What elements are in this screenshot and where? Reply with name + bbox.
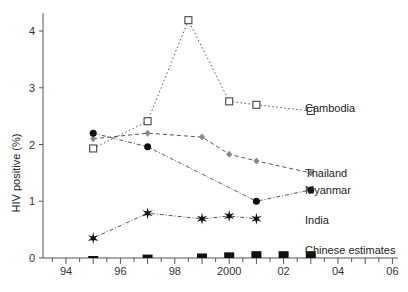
x-tick-label: 06 <box>386 265 398 277</box>
data-point <box>253 101 260 108</box>
data-point <box>90 145 97 152</box>
data-point <box>144 118 151 125</box>
data-point <box>199 134 205 141</box>
data-point <box>185 17 192 24</box>
data-point <box>226 151 232 158</box>
data-point <box>90 130 97 137</box>
bar <box>279 251 289 258</box>
data-point <box>253 157 259 164</box>
data-point <box>145 130 151 137</box>
bar <box>88 256 98 258</box>
x-tick-label: 94 <box>60 265 72 277</box>
data-point <box>88 232 98 244</box>
hiv-prevalence-chart: 012349496982000020406HIV positive (%)Cam… <box>0 0 408 292</box>
y-tick-label: 1 <box>29 195 35 207</box>
series-label-chinese-estimates: Chinese estimates <box>305 244 396 256</box>
series-label-cambodia: Cambodia <box>305 102 356 114</box>
series-line-myanmar <box>93 133 311 201</box>
x-tick-label: 04 <box>332 265 344 277</box>
bar <box>143 255 153 258</box>
data-point <box>144 143 151 150</box>
y-tick-label: 3 <box>29 82 35 94</box>
data-point <box>226 98 233 105</box>
bar <box>224 252 234 258</box>
x-tick-label: 98 <box>169 265 181 277</box>
series-label-india: India <box>305 214 330 226</box>
data-point <box>253 198 260 205</box>
bar <box>251 251 261 258</box>
series-line-cambodia <box>93 20 311 148</box>
y-axis-title: HIV positive (%) <box>10 134 22 213</box>
bar <box>197 253 207 258</box>
x-tick-label: 02 <box>277 265 289 277</box>
series-label-myanmar: Myanmar <box>305 184 351 196</box>
series-label-thailand: Thailand <box>305 167 347 179</box>
x-tick-label: 2000 <box>217 265 241 277</box>
x-tick-label: 96 <box>114 265 126 277</box>
y-tick-label: 0 <box>29 252 35 264</box>
y-tick-label: 4 <box>29 25 35 37</box>
y-tick-label: 2 <box>29 139 35 151</box>
